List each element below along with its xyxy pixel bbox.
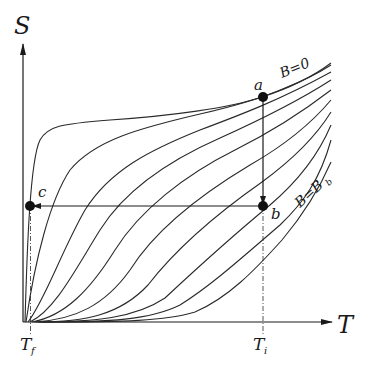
entropy-curves [25, 63, 331, 322]
ti-label: T i [253, 334, 267, 356]
svg-text:B=B: B=B [291, 177, 326, 211]
curve-bb [42, 162, 331, 322]
curve-4 [30, 80, 331, 322]
svg-text:b: b [323, 176, 334, 187]
tf-label: T f [20, 334, 37, 356]
label-b-bb: B=B b [291, 170, 335, 212]
point-c-label: c [38, 183, 47, 201]
curve-2 [26, 65, 331, 322]
point-c [25, 201, 35, 211]
svg-text:f: f [30, 345, 37, 356]
entropy-temperature-diagram: S T T f T i a b [0, 0, 377, 368]
s-axis-label: S [14, 12, 30, 40]
point-b [258, 201, 268, 211]
label-b-zero: B=0 [276, 54, 312, 81]
curve-9 [40, 140, 331, 322]
svg-text:B=0: B=0 [276, 54, 312, 81]
t-axis-label: T [337, 311, 355, 339]
curve-b0 [25, 63, 331, 322]
curve-6 [34, 100, 331, 322]
curve-8 [38, 125, 331, 322]
point-a-label: a [254, 76, 263, 94]
point-b-label: b [271, 205, 281, 223]
svg-text:i: i [264, 345, 267, 356]
curve-7 [36, 112, 331, 322]
